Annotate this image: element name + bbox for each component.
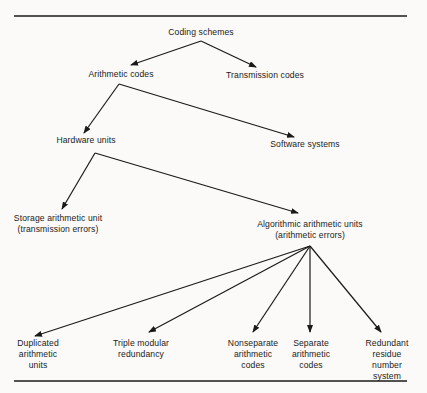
node-algorithmic-arithmetic-units: Algorithmic arithmetic units (arithmetic…: [257, 219, 362, 241]
node-arithmetic-codes: Arithmetic codes: [88, 69, 153, 80]
edge-arith-hw: [84, 84, 119, 133]
edge-algo-nonsep: [253, 246, 310, 332]
node-label: arithmetic: [17, 349, 59, 360]
node-transmission-codes: Transmission codes: [226, 70, 304, 81]
node-label: (arithmetic errors): [257, 230, 362, 241]
node-label: Coding schemes: [168, 27, 233, 38]
node-label: Transmission codes: [226, 70, 304, 81]
node-hardware-units: Hardware units: [56, 135, 115, 146]
edge-algo-tmr: [149, 246, 310, 332]
edge-arith-sw: [119, 84, 294, 137]
node-label: codes: [228, 360, 278, 371]
node-software-systems: Software systems: [270, 139, 339, 150]
node-label: Software systems: [270, 139, 339, 150]
node-label: Nonseparate: [228, 338, 278, 349]
node-nonseparate-arithmetic-codes: Nonseparate arithmetic codes: [228, 338, 278, 371]
node-label: residue: [366, 349, 409, 360]
node-label: codes: [292, 360, 330, 371]
node-duplicated-arithmetic-units: Duplicated arithmetic units: [17, 338, 59, 371]
node-redundant-residue-number-system: Redundant residue number system: [366, 338, 409, 382]
node-label: Algorithmic arithmetic units: [257, 219, 362, 230]
node-label: system: [366, 371, 409, 382]
node-label: Arithmetic codes: [88, 69, 153, 80]
edge-root-trans: [201, 41, 256, 67]
node-label: redundancy: [113, 349, 169, 360]
node-label: number: [366, 360, 409, 371]
edge-root-arith: [131, 41, 201, 65]
edge-hw-storage: [62, 153, 95, 209]
node-label: Redundant: [366, 338, 409, 349]
node-storage-arithmetic-unit: Storage arithmetic unit (transmission er…: [14, 213, 102, 235]
node-label: arithmetic: [228, 349, 278, 360]
edge-hw-algo: [95, 153, 298, 213]
node-label: arithmetic: [292, 349, 330, 360]
node-separate-arithmetic-codes: Separate arithmetic codes: [292, 338, 330, 371]
diagram-lines: [0, 0, 427, 393]
node-label: Triple modular: [113, 338, 169, 349]
node-label: Separate: [292, 338, 330, 349]
node-label: Hardware units: [56, 135, 115, 146]
node-label: Storage arithmetic unit: [14, 213, 102, 224]
edge-algo-dup: [35, 246, 310, 336]
node-triple-modular-redundancy: Triple modular redundancy: [113, 338, 169, 360]
node-label: (transmission errors): [14, 224, 102, 235]
node-label: Duplicated: [17, 338, 59, 349]
edge-algo-rrns: [310, 246, 381, 332]
node-label: units: [17, 360, 59, 371]
node-coding-schemes: Coding schemes: [168, 27, 233, 38]
